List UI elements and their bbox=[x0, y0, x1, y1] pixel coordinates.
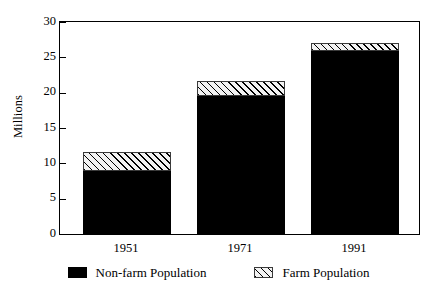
plot-area: 0 5 10 15 20 25 30 bbox=[59, 21, 420, 235]
bar-1991[interactable] bbox=[311, 43, 399, 234]
bar-segment-nonfarm-1991[interactable] bbox=[311, 51, 399, 234]
legend-entry-farm[interactable]: Farm Population bbox=[254, 266, 369, 279]
y-tick-30: 30 bbox=[60, 22, 66, 23]
legend-swatch-farm-icon bbox=[254, 267, 273, 278]
bar-segment-farm-1951[interactable] bbox=[83, 152, 171, 171]
chart-legend: Non-farm Population Farm Population bbox=[0, 266, 437, 279]
bar-1951[interactable] bbox=[83, 152, 171, 234]
y-tick-0: 0 bbox=[60, 234, 66, 235]
x-tick-label-1991: 1991 bbox=[310, 241, 398, 256]
legend-entry-nonfarm[interactable]: Non-farm Population bbox=[68, 266, 207, 279]
bar-1971[interactable] bbox=[197, 81, 285, 234]
bar-segment-farm-1971[interactable] bbox=[197, 81, 285, 96]
bar-segment-nonfarm-1951[interactable] bbox=[83, 171, 171, 234]
y-tick-label-10: 10 bbox=[44, 156, 57, 169]
y-axis-title: Millions bbox=[11, 77, 26, 157]
y-tick-label-30: 30 bbox=[44, 15, 57, 28]
chart-figure: Millions 0 5 10 15 20 25 30 bbox=[0, 0, 437, 296]
y-tick-5: 5 bbox=[60, 199, 66, 200]
x-tick-label-1971: 1971 bbox=[196, 241, 284, 256]
bar-segment-farm-1991[interactable] bbox=[311, 43, 399, 51]
legend-swatch-nonfarm-icon bbox=[68, 267, 87, 278]
y-tick-label-25: 25 bbox=[44, 50, 57, 63]
y-tick-15: 15 bbox=[60, 128, 66, 129]
y-tick-10: 10 bbox=[60, 163, 66, 164]
y-tick-label-0: 0 bbox=[50, 227, 56, 240]
legend-label-nonfarm: Non-farm Population bbox=[96, 266, 207, 279]
y-tick-20: 20 bbox=[60, 93, 66, 94]
y-tick-label-20: 20 bbox=[44, 85, 57, 98]
y-tick-label-5: 5 bbox=[50, 191, 56, 204]
legend-label-farm: Farm Population bbox=[282, 266, 369, 279]
y-tick-25: 25 bbox=[60, 57, 66, 58]
y-tick-label-15: 15 bbox=[44, 121, 57, 134]
x-tick-label-1951: 1951 bbox=[82, 241, 170, 256]
bar-segment-nonfarm-1971[interactable] bbox=[197, 96, 285, 235]
